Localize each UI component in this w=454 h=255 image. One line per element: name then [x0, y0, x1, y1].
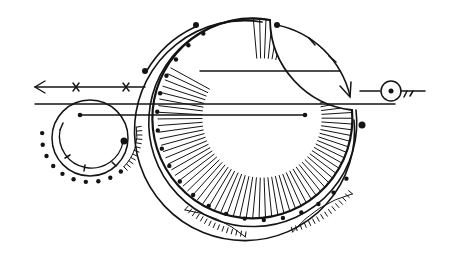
tick-arcs [124, 126, 353, 237]
orbit-arc-with-arrow [277, 25, 351, 97]
dotted-ring [40, 31, 349, 222]
crescent-moon-illustration [0, 0, 454, 255]
left-arrow-with-crosses [35, 81, 145, 93]
small-orbit-circle [52, 100, 128, 176]
